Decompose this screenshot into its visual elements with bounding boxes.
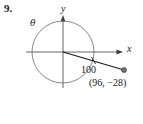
- radius-length-label: 100: [81, 65, 96, 75]
- x-axis-arrowhead: [117, 50, 124, 55]
- figure-container: 9. y x θ 100 (96, −28): [0, 0, 143, 124]
- angle-theta-label: θ: [30, 19, 35, 28]
- y-axis-label: y: [61, 4, 65, 14]
- x-axis-label: x: [127, 44, 131, 54]
- coordinate-diagram: [0, 0, 143, 124]
- terminal-point-dot: [121, 67, 126, 72]
- terminal-point-coordinates: (96, −28): [89, 78, 126, 88]
- y-axis-arrowhead: [61, 15, 66, 22]
